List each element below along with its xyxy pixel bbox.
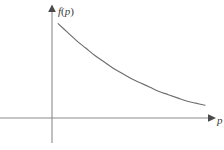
x-axis-arrow-icon [208,114,216,122]
x-axis-label: p [216,114,223,126]
y-axis-label-close-paren: ) [70,5,74,18]
y-axis-label: f(p) [58,5,74,18]
function-curve [58,24,205,106]
function-plot-figure: f(p) p [0,0,224,150]
y-axis-arrow-icon [48,5,56,13]
plot-canvas: f(p) p [0,0,224,150]
